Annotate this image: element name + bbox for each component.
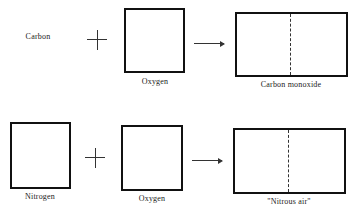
dashed-divider	[290, 14, 291, 75]
plus-icon	[85, 148, 105, 168]
carbon-monoxide-label: Carbon monoxide	[261, 80, 322, 89]
dashed-divider	[288, 130, 289, 192]
nitrous-air-box	[233, 128, 346, 194]
nitrogen-box	[10, 122, 71, 189]
nitrous-air-label: "Nitrous air"	[267, 197, 311, 206]
oxygen-label: Oxygen	[139, 194, 166, 203]
plus-icon	[87, 30, 107, 50]
oxygen-box	[121, 125, 183, 191]
oxygen-box	[124, 8, 185, 73]
carbon-label: Carbon	[26, 32, 51, 41]
carbon-monoxide-box	[235, 12, 348, 77]
nitrogen-label: Nitrogen	[25, 192, 55, 201]
oxygen-label: Oxygen	[142, 77, 169, 86]
right-arrow-icon	[192, 160, 222, 161]
right-arrow-icon	[194, 43, 224, 44]
